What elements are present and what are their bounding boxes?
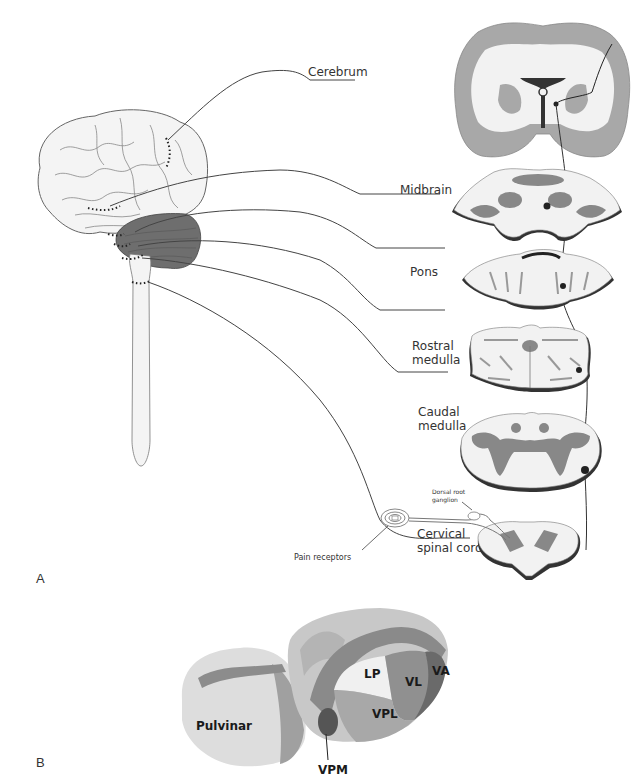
label-drg-1: Dorsal root: [432, 488, 466, 495]
label-pulvinar: Pulvinar: [196, 719, 252, 733]
label-cervical-2: spinal cord: [417, 541, 483, 555]
label-caudal-medulla-1: Caudal: [418, 405, 460, 419]
figure-canvas: Cerebrum Midbrain Pons Rostral medulla C…: [0, 0, 632, 778]
section-caudal-medulla: [460, 413, 601, 493]
lateral-brain: [38, 110, 207, 466]
label-cerebrum: Cerebrum: [308, 65, 368, 79]
panel-label-a: A: [36, 571, 45, 586]
label-cervical-1: Cervical: [417, 527, 465, 541]
section-labels: Cerebrum Midbrain Pons Rostral medulla C…: [294, 65, 483, 562]
label-lp: LP: [364, 667, 381, 681]
label-va: VA: [432, 664, 450, 678]
vpm-nucleus: [318, 708, 338, 736]
section-rostral-medulla: [469, 325, 590, 392]
label-vpm: VPM: [318, 763, 348, 777]
label-pons: Pons: [410, 265, 438, 279]
section-pons: [462, 250, 614, 310]
section-midbrain: [452, 169, 622, 241]
spinal-cord: [129, 254, 150, 466]
panel-label-b: B: [36, 755, 45, 770]
label-drg-2: ganglion: [432, 496, 458, 504]
label-vl: VL: [405, 675, 422, 689]
label-vpl: VPL: [372, 707, 398, 721]
label-caudal-medulla-2: medulla: [418, 419, 466, 433]
connector-cerebrum: [168, 70, 355, 140]
label-midbrain: Midbrain: [400, 183, 452, 197]
thalamus-diagram: Pulvinar LP VL VA VPL VPM: [182, 608, 451, 777]
section-cerebrum: [455, 23, 630, 157]
dorsal-root-ganglion: [468, 512, 480, 520]
label-rostral-medulla-2: medulla: [412, 353, 460, 367]
pain-receptor-icon: [381, 509, 409, 527]
connector-caudal-medulla: [142, 258, 448, 372]
label-pain-receptors: Pain receptors: [294, 553, 351, 562]
label-rostral-medulla-1: Rostral: [412, 339, 454, 353]
